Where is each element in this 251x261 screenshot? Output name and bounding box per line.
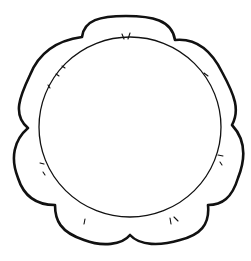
flower-frame-drawing — [0, 0, 251, 261]
inner-circle — [39, 37, 221, 217]
scalloped-outer-frame — [14, 16, 243, 244]
coloring-page-canvas — [0, 0, 251, 261]
